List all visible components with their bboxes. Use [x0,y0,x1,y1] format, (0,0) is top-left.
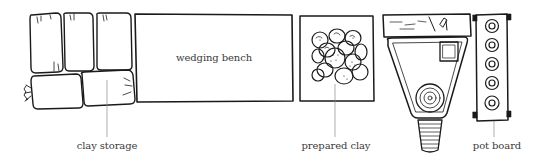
clay-balls [312,29,368,84]
studio-layout-diagram: clay storage wedging bench prepared clay… [0,0,538,163]
diagram-drawing [0,0,538,163]
pot-board [473,14,511,121]
wedging-bench-label: wedging bench [176,52,252,63]
potters-wheel [383,14,471,152]
pot-board-label: pot board [473,140,521,151]
clay-storage-label: clay storage [77,140,138,151]
clay-storage-bags [24,13,135,109]
prepared-clay-label: prepared clay [302,140,371,151]
